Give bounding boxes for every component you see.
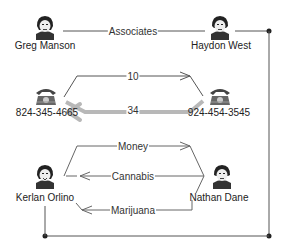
phone-icon[interactable] [34, 86, 58, 106]
edge-label-money: Money [117, 141, 149, 152]
node-label-nathan-dane[interactable]: Nathan Dane [190, 192, 249, 203]
person-icon[interactable] [33, 163, 57, 189]
edge-label-34: 34 [126, 105, 139, 116]
person-icon[interactable] [210, 163, 234, 189]
link-diagram: Greg Manson Haydon West 824-345-4665 924… [0, 0, 283, 248]
edge-label-associates: Associates [108, 26, 158, 37]
person-icon[interactable] [33, 14, 57, 40]
edge-label-marijuana: Marijuana [110, 205, 156, 216]
node-label-kerlan-orlino[interactable]: Kerlan Orlino [16, 192, 74, 203]
node-label-greg-manson[interactable]: Greg Manson [15, 40, 76, 51]
phone-icon[interactable] [208, 86, 232, 106]
node-label-phone-824[interactable]: 824-345-4665 [16, 107, 78, 118]
edge-label-cannabis: Cannabis [111, 171, 155, 182]
edge-label-10: 10 [126, 71, 139, 82]
node-label-haydon-west[interactable]: Haydon West [191, 40, 251, 51]
node-label-phone-924[interactable]: 924-454-3545 [188, 107, 250, 118]
person-icon[interactable] [208, 14, 232, 40]
